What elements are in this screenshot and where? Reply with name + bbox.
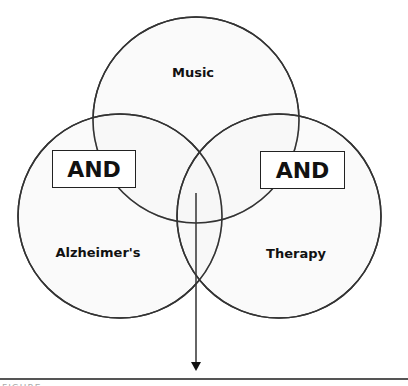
- arrow-down-icon: [191, 362, 201, 371]
- venn-svg: [0, 0, 408, 386]
- operator-and-right-label: AND: [276, 158, 330, 183]
- figure-caption: FIGURE: [2, 382, 41, 386]
- label-therapy: Therapy: [266, 246, 326, 261]
- operator-and-left: AND: [52, 150, 136, 188]
- label-alzheimers: Alzheimer's: [55, 245, 140, 260]
- venn-diagram: Music Alzheimer's Therapy AND AND FIGURE: [0, 0, 408, 386]
- label-music: Music: [172, 65, 214, 80]
- circle-therapy: [177, 114, 381, 318]
- operator-and-left-label: AND: [67, 157, 121, 182]
- caption-divider: [0, 378, 408, 380]
- operator-and-right: AND: [260, 151, 345, 189]
